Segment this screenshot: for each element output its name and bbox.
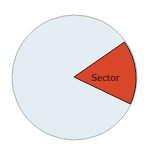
sector-label: Sector [91,71,119,83]
circle-sector-diagram: Sector [0,0,150,148]
